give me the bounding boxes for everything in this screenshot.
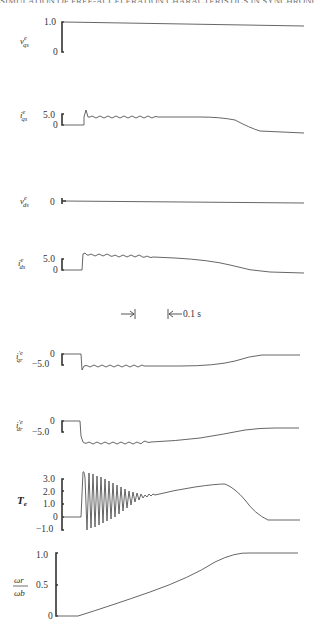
- panel-wr: ωr ωb 1.0 0.5 0: [13, 550, 298, 621]
- panel-iqr: i'eqr 0 −5.0: [16, 349, 300, 370]
- axis-wr: [56, 553, 58, 616]
- trace-ids: [64, 253, 304, 273]
- arrow-right-icon: [121, 309, 135, 319]
- ylabel-vds: veds: [20, 194, 29, 208]
- tick-vds-0: 0: [50, 197, 55, 207]
- ylabel-ids: ieds: [18, 256, 26, 270]
- chart-stack: veqs 1.0 0 ieqs 5.0 0 veds 0 ieds 5.0 0 …: [0, 0, 316, 622]
- arrow-left-icon: [168, 309, 182, 319]
- panel-vds: veds 0: [20, 194, 304, 208]
- tick-iqs-5: 5.0: [43, 110, 55, 120]
- panel-te: Te 3.0 2.0 1.0 0 −1.0: [17, 472, 300, 534]
- ylabel-wr: ωr ωb: [13, 575, 28, 598]
- trace-iqr: [64, 354, 300, 370]
- ylabel-iqr: i'eqr: [16, 349, 23, 363]
- tick-idr-m5: −5.0: [32, 427, 49, 437]
- panel-idr: i'edr 0 −5.0: [16, 416, 299, 444]
- trace-wr: [56, 553, 298, 616]
- ylabel-vqs: veqs: [20, 34, 29, 48]
- tick-te-0: 0: [53, 512, 58, 522]
- axis-ids: [62, 259, 64, 270]
- tick-ids-0: 0: [53, 265, 58, 275]
- tick-iqr-m5: −5.0: [32, 359, 49, 369]
- tick-wr-05: 0.5: [36, 580, 48, 590]
- tick-idr-0: 0: [50, 416, 55, 426]
- axis-te: [62, 479, 64, 530]
- ylabel-wr-den: ωb: [14, 588, 25, 598]
- tick-vqs-0: 0: [53, 47, 58, 57]
- trace-iqs: [64, 110, 304, 133]
- tick-te-m1: −1.0: [36, 524, 53, 534]
- tick-te-1: 1.0: [43, 499, 55, 509]
- ylabel-idr: i'edr: [16, 418, 23, 432]
- time-scale-marker: 0.1 s: [121, 309, 201, 319]
- panel-vqs: veqs 1.0 0: [20, 17, 304, 57]
- ylabel-wr-num: ωr: [14, 575, 24, 585]
- trace-vqs: [64, 22, 304, 26]
- tick-wr-1: 1.0: [36, 550, 48, 560]
- time-scale-label: 0.1 s: [183, 309, 201, 319]
- tick-wr-0: 0: [48, 611, 53, 621]
- panel-ids: ieds 5.0 0: [18, 253, 304, 275]
- trace-vds: [62, 201, 304, 203]
- tick-iqs-0: 0: [53, 120, 58, 130]
- tick-iqr-0: 0: [50, 349, 55, 359]
- ylabel-iqs: ieqs: [20, 108, 28, 122]
- axis-idr: [62, 421, 64, 432]
- axis-iqr: [62, 354, 64, 365]
- trace-idr: [64, 421, 299, 444]
- ylabel-te: Te: [17, 494, 27, 508]
- axis-vqs: [62, 22, 64, 52]
- axis-iqs: [62, 114, 64, 125]
- tick-te-2: 2.0: [43, 487, 55, 497]
- panel-iqs: ieqs 5.0 0: [20, 108, 304, 133]
- trace-te: [62, 472, 300, 530]
- tick-vqs-1: 1.0: [44, 17, 56, 27]
- tick-te-3: 3.0: [43, 474, 55, 484]
- tick-ids-5: 5.0: [43, 254, 55, 264]
